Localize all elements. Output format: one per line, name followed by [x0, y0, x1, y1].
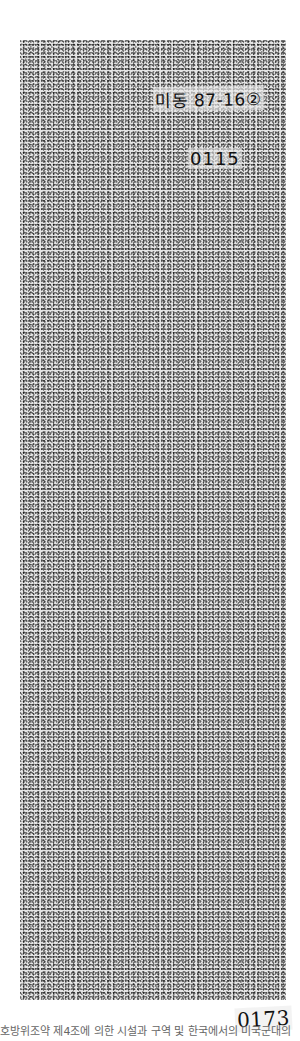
document-caption: 호방위조약 제4조에 의한 시설과 구역 및 한국에서의 미국군대의	[0, 1025, 300, 1039]
handwritten-reference-number: 미동 87-16②	[153, 85, 264, 112]
scanned-page: 미동 87-16② 0115 0173	[20, 40, 286, 1000]
page-number-top: 0115	[188, 148, 242, 169]
